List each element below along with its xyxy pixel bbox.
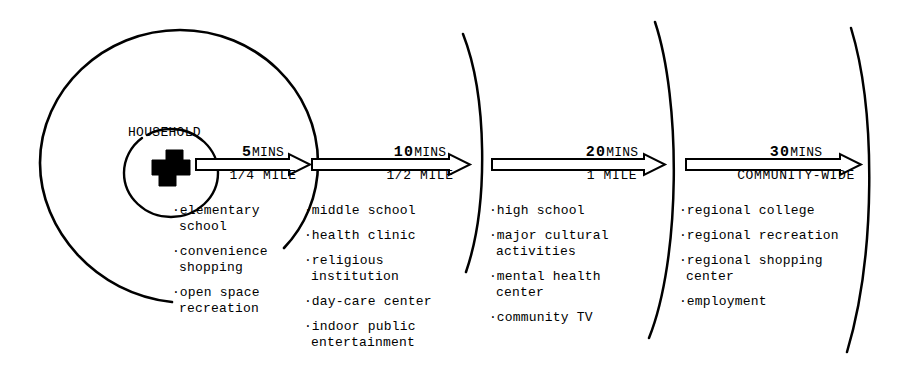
bullet-icon: · — [489, 228, 497, 243]
service-item: ·indoor public entertainment — [304, 319, 454, 351]
service-item-label: community TV — [497, 310, 593, 325]
bullet-icon: · — [489, 269, 497, 284]
segment-time-unit-2: MINS — [414, 145, 446, 160]
service-item-label: major cultural activities — [496, 228, 609, 259]
service-list-1: ·elementary school ·convenience shopping… — [172, 203, 297, 317]
service-item-label: middle school — [312, 203, 416, 218]
service-item: ·middle school — [304, 203, 454, 219]
service-item-label: elementary school — [179, 203, 260, 234]
segment-time-unit-4: MINS — [790, 145, 822, 160]
service-item-label: open space recreation — [179, 285, 260, 316]
service-item: ·high school — [489, 203, 639, 219]
bullet-icon: · — [679, 294, 687, 309]
service-item: ·major cultural activities — [489, 228, 639, 260]
service-item: ·regional college — [679, 203, 869, 219]
segment-time-unit-1: MINS — [252, 145, 284, 160]
segment-time-unit-3: MINS — [606, 145, 638, 160]
segment-distance-1: 1/4 MILE — [213, 168, 313, 183]
segment-time-value-4: 30 — [770, 144, 790, 161]
bullet-icon: · — [489, 203, 497, 218]
service-list-2: ·middle school ·health clinic ·religious… — [304, 203, 454, 351]
segment-label-4: 30MINS COMMUNITY-WIDE — [731, 144, 861, 183]
service-item: ·convenience shopping — [172, 244, 297, 276]
segment-time-value-3: 20 — [586, 144, 606, 161]
segment-label-2: 10MINS 1/2 MILE — [365, 144, 475, 183]
service-item: ·open space recreation — [172, 285, 297, 317]
bullet-icon: · — [304, 319, 312, 334]
bullet-icon: · — [172, 203, 180, 218]
service-item-label: convenience shopping — [179, 244, 268, 275]
segment-distance-3: 1 MILE — [557, 168, 667, 183]
bullet-icon: · — [172, 285, 180, 300]
service-item: ·employment — [679, 294, 869, 310]
service-item-label: employment — [687, 294, 767, 309]
service-item: ·elementary school — [172, 203, 297, 235]
service-item-label: religious institution — [311, 253, 399, 284]
bullet-icon: · — [679, 253, 687, 268]
bullet-icon: · — [304, 294, 312, 309]
bullet-icon: · — [304, 228, 312, 243]
segment-time-3: 20MINS — [557, 144, 667, 161]
household-label: HOUSEHOLD — [128, 125, 201, 140]
service-item-label: high school — [497, 203, 585, 218]
service-item: ·regional shopping center — [679, 253, 869, 285]
segment-time-value-1: 5 — [242, 144, 252, 161]
segment-time-1: 5MINS — [213, 144, 313, 161]
bullet-icon: · — [679, 228, 687, 243]
service-item-label: day-care center — [312, 294, 432, 309]
service-item: ·community TV — [489, 310, 639, 326]
service-item-label: regional shopping center — [686, 253, 823, 284]
bullet-icon: · — [489, 310, 497, 325]
service-item: ·religious institution — [304, 253, 454, 285]
service-item-label: indoor public entertainment — [311, 319, 416, 350]
service-list-3: ·high school ·major cultural activities … — [489, 203, 639, 326]
service-item: ·health clinic — [304, 228, 454, 244]
segment-distance-4: COMMUNITY-WIDE — [731, 168, 861, 183]
segment-time-2: 10MINS — [365, 144, 475, 161]
bullet-icon: · — [679, 203, 687, 218]
segment-distance-2: 1/2 MILE — [365, 168, 475, 183]
segment-label-3: 20MINS 1 MILE — [557, 144, 667, 183]
service-item: ·regional recreation — [679, 228, 869, 244]
service-list-4: ·regional college ·regional recreation ·… — [679, 203, 869, 310]
service-item: ·day-care center — [304, 294, 454, 310]
diagram-canvas: HOUSEHOLD 5MINS 1/4 MILE 10MINS 1/2 MILE… — [0, 0, 909, 368]
service-item-label: regional recreation — [687, 228, 839, 243]
bullet-icon: · — [304, 203, 312, 218]
segment-time-value-2: 10 — [394, 144, 414, 161]
service-item: ·mental health center — [489, 269, 639, 301]
bullet-icon: · — [172, 244, 180, 259]
service-item-label: health clinic — [312, 228, 416, 243]
service-item-label: mental health center — [496, 269, 601, 300]
bullet-icon: · — [304, 253, 312, 268]
segment-label-1: 5MINS 1/4 MILE — [213, 144, 313, 183]
service-item-label: regional college — [687, 203, 815, 218]
segment-time-4: 30MINS — [731, 144, 861, 161]
